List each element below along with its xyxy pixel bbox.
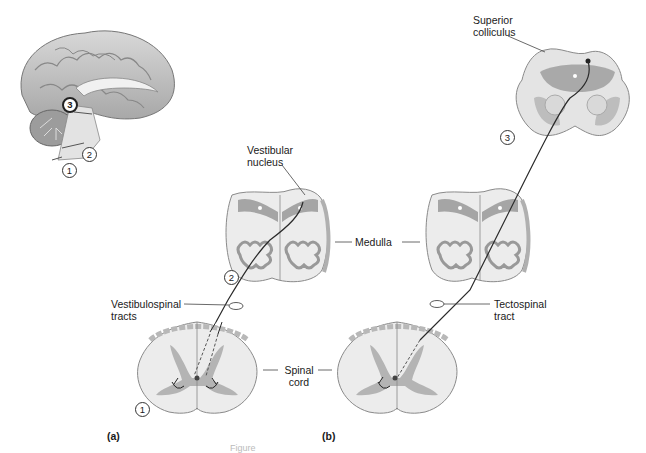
midbrain-section-icon	[516, 49, 629, 136]
label-tectospinal-tract: Tectospinal tract	[494, 298, 547, 322]
caption-fragment: Figure	[230, 443, 256, 453]
label-vestibular-nucleus: Vestibular nucleus	[247, 144, 293, 168]
panel-label-b: (b)	[322, 430, 335, 442]
label-spinal-cord: Spinal cord	[280, 364, 318, 388]
label-line: tract	[494, 310, 547, 322]
marker-2-medulla: 2	[224, 270, 239, 285]
label-line: Vestibular	[247, 144, 293, 156]
marker-3-colliculus: 3	[500, 130, 515, 145]
label-superior-colliculus: Superior colliculus	[473, 14, 516, 38]
label-line: Tectospinal	[494, 298, 547, 310]
medulla-section-a-icon	[226, 189, 328, 282]
label-line: cord	[280, 376, 318, 388]
label-line: Spinal	[280, 364, 318, 376]
marker-2-brain: 2	[82, 147, 97, 162]
marker-1-spinal-cord: 1	[135, 402, 150, 417]
label-line: Vestibulospinal	[111, 298, 181, 310]
label-line: Superior	[473, 14, 516, 26]
spinal-cord-section-b-icon	[338, 322, 457, 413]
label-vestibulospinal-tracts: Vestibulospinal tracts	[111, 298, 181, 322]
label-line: colliculus	[473, 26, 516, 38]
label-medulla: Medulla	[355, 236, 392, 248]
panel-label-a: (a)	[107, 430, 120, 442]
marker-3-brain: 3	[62, 97, 78, 113]
label-line: nucleus	[247, 156, 293, 168]
brain-sagittal-icon	[21, 31, 174, 160]
marker-1-brain: 1	[62, 163, 77, 178]
label-line: tracts	[111, 310, 181, 322]
